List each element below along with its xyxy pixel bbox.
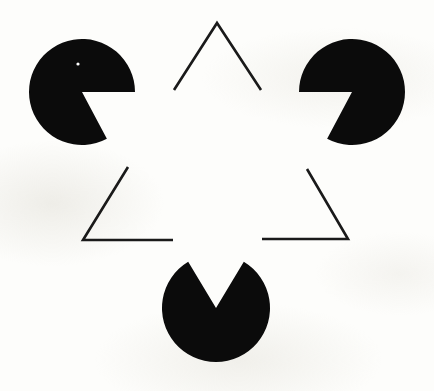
figure-canvas [0,0,434,391]
kanizsa-figure [0,0,434,391]
white-speck-icon [76,62,79,65]
